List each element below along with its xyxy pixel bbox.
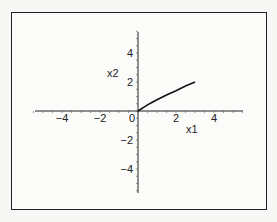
x-axis-label: x1 <box>186 123 198 135</box>
plot-area: −4−202442−2−4 x1 x2 <box>0 0 277 222</box>
x-tick-label: −2 <box>94 112 107 124</box>
data-curve <box>138 82 195 111</box>
y-tick-label: 2 <box>127 76 133 88</box>
x-tick-label: 0 <box>129 112 135 124</box>
y-axis-label: x2 <box>107 67 119 79</box>
y-tick-label: 4 <box>127 47 133 59</box>
x-tick-label: −4 <box>56 112 69 124</box>
y-tick-label: −2 <box>120 134 133 146</box>
x-tick-label: 2 <box>173 112 179 124</box>
y-tick-label: −4 <box>120 163 133 175</box>
x-tick-label: 4 <box>211 112 217 124</box>
